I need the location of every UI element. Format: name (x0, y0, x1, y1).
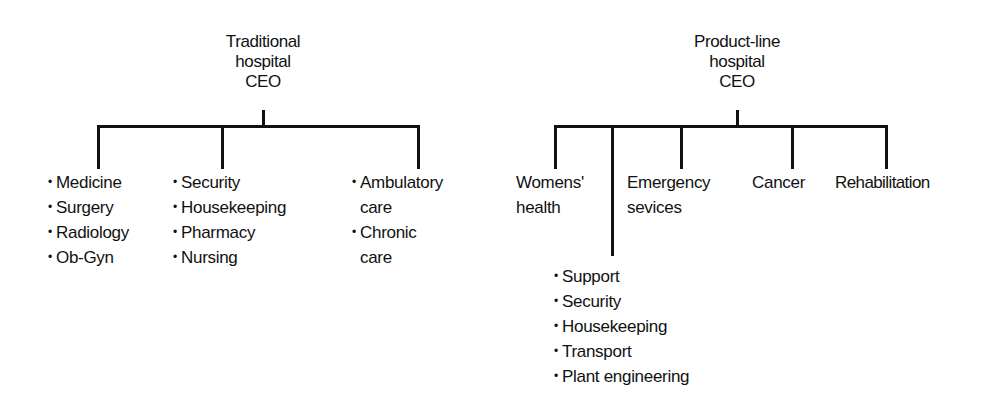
list-item: •Housekeeping (554, 314, 689, 339)
product-line-branch-bar (554, 125, 888, 128)
bullet-icon: • (173, 170, 181, 195)
traditional-branch-1 (97, 125, 100, 169)
title-line: Traditional (183, 32, 343, 52)
list-item: •Pharmacy (173, 220, 286, 245)
traditional-branch-2 (221, 125, 224, 169)
list-item: •Ambulatory (352, 170, 443, 195)
bullet-icon: • (554, 264, 562, 289)
list-item-cont: care (352, 195, 443, 220)
list-item: •Transport (554, 339, 689, 364)
traditional-group-support: •Security •Housekeeping •Pharmacy •Nursi… (173, 170, 286, 270)
unit-rehabilitation: Rehabilitation (835, 170, 930, 195)
bullet-icon: • (173, 195, 181, 220)
bullet-icon: • (173, 245, 181, 270)
list-item: •Radiology (48, 220, 129, 245)
product-line-support-services: •Support •Security •Housekeeping •Transp… (554, 264, 689, 389)
product-line-branch-womens (554, 125, 557, 169)
title-line: CEO (183, 72, 343, 92)
product-line-ceo-title: Product-line hospital CEO (657, 32, 817, 92)
product-line-branch-cancer (791, 125, 794, 169)
product-line-branch-rehab (885, 125, 888, 169)
list-item: •Nursing (173, 245, 286, 270)
bullet-icon: • (48, 195, 56, 220)
list-item: •Surgery (48, 195, 129, 220)
list-item: •Chronic (352, 220, 443, 245)
product-line-branch-emergency (680, 125, 683, 169)
list-item: •Security (173, 170, 286, 195)
title-line: hospital (657, 52, 817, 72)
bullet-icon: • (352, 170, 360, 195)
title-line: CEO (657, 72, 817, 92)
unit-womens-health: Womens' health (516, 170, 584, 220)
bullet-icon: • (352, 220, 360, 245)
bullet-icon: • (554, 314, 562, 339)
product-line-branch-support (611, 125, 614, 256)
list-item-cont: care (352, 245, 443, 270)
bullet-icon: • (554, 289, 562, 314)
bullet-icon: • (48, 220, 56, 245)
list-item: •Support (554, 264, 689, 289)
list-item: •Plant engineering (554, 364, 689, 389)
list-item: •Security (554, 289, 689, 314)
bullet-icon: • (554, 364, 562, 389)
traditional-group-care: •Ambulatory care •Chronic care (352, 170, 443, 270)
list-item: •Housekeeping (173, 195, 286, 220)
traditional-branch-3 (417, 125, 420, 169)
traditional-ceo-title: Traditional hospital CEO (183, 32, 343, 92)
title-line: Product-line (657, 32, 817, 52)
bullet-icon: • (173, 220, 181, 245)
bullet-icon: • (554, 339, 562, 364)
bullet-icon: • (48, 245, 56, 270)
traditional-group-clinical: •Medicine •Surgery •Radiology •Ob-Gyn (48, 170, 129, 270)
list-item: •Ob-Gyn (48, 245, 129, 270)
list-item: •Medicine (48, 170, 129, 195)
unit-cancer: Cancer (752, 170, 805, 195)
title-line: hospital (183, 52, 343, 72)
traditional-branch-bar (97, 125, 420, 128)
bullet-icon: • (48, 170, 56, 195)
unit-emergency-services: Emergency sevices (627, 170, 710, 220)
